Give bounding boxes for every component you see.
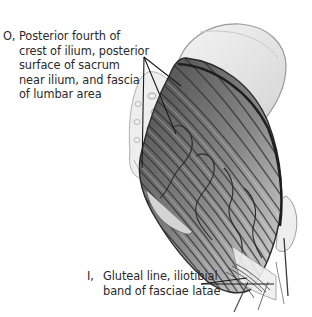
origin-prefix: O, <box>3 29 19 44</box>
origin-label-line-4: near ilium, and fascia <box>3 73 149 88</box>
insertion-label: I,Gluteal line, iliotibial band of fasci… <box>87 269 220 298</box>
origin-label-line-5: of lumbar area <box>3 87 149 102</box>
origin-label-line-3: surface of sacrum <box>3 58 149 73</box>
anatomy-figure: O,Posterior fourth of crest of ilium, po… <box>0 0 312 317</box>
insertion-label-line-1: I,Gluteal line, iliotibial <box>87 269 220 284</box>
origin-label-line-1: O,Posterior fourth of <box>3 29 149 44</box>
insertion-prefix: I, <box>87 269 103 284</box>
origin-label: O,Posterior fourth of crest of ilium, po… <box>3 29 149 102</box>
insertion-label-line-2: band of fasciae latae <box>87 284 220 299</box>
origin-label-line-2: crest of ilium, posterior <box>3 44 149 59</box>
